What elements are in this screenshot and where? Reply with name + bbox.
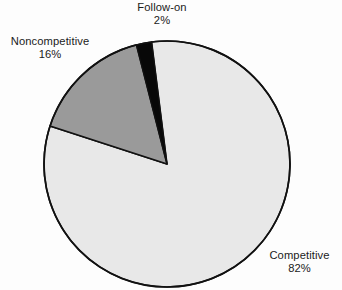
- pie-label-competitive: Competitive 82%: [257, 249, 342, 276]
- pie-label-noncompetitive-value: 16%: [0, 48, 100, 61]
- pie-label-followon-name: Follow-on: [112, 1, 212, 14]
- pie-chart: Follow-on 2% Noncompetitive 16% Competit…: [0, 0, 342, 290]
- pie-label-noncompetitive: Noncompetitive 16%: [0, 35, 100, 62]
- pie-label-competitive-value: 82%: [257, 262, 342, 275]
- pie-label-noncompetitive-name: Noncompetitive: [0, 35, 100, 48]
- pie-label-competitive-name: Competitive: [257, 249, 342, 262]
- pie-label-followon-value: 2%: [112, 14, 212, 27]
- pie-label-followon: Follow-on 2%: [112, 1, 212, 28]
